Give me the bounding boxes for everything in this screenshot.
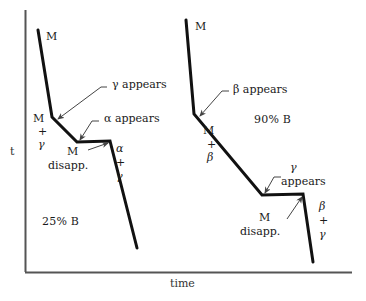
left-phase-label-M-top: M [46, 31, 57, 42]
right-phase-plus-mid: + [207, 139, 216, 150]
composition-label-25-percent-B: 25% B [42, 216, 79, 227]
diagram-canvas [0, 0, 366, 301]
left-m-disapp-M: M [67, 146, 78, 157]
right-phase-label-gamma-lower: γ [319, 229, 326, 240]
annotation-leaders [58, 87, 302, 219]
right-m-disapp-M: M [259, 212, 270, 223]
left-phase-plus-mid: + [38, 126, 47, 137]
left-phase-plus-lower: + [116, 157, 125, 168]
right-annotation-gamma-symbol: γ [290, 162, 297, 173]
right-phase-label-beta-lower: β [319, 201, 325, 212]
right-m-disapp-text: disapp. [240, 226, 280, 237]
right-phase-label-M-mid: M [203, 125, 214, 136]
y-axis-label: t [10, 146, 14, 157]
right-annotation-beta-appears: β appears [233, 84, 287, 95]
right-phase-label-beta-mid: β [207, 152, 213, 163]
left-annotation-gamma-appears: γ appears [112, 79, 167, 90]
right-phase-plus-lower: + [319, 215, 328, 226]
right-annotation-gamma-appears: appears [281, 176, 326, 187]
left-phase-label-alpha: α [116, 143, 123, 154]
gamma-appears-leader-left [58, 87, 107, 119]
left-annotation-alpha-appears: α appears [104, 113, 160, 124]
composition-label-90-percent-B: 90% B [254, 114, 291, 125]
m-disapp-leader-left [88, 143, 108, 150]
right-phase-label-M-top: M [195, 21, 206, 32]
m-disapp-leader-right [287, 197, 302, 219]
left-m-disapp-text: disapp. [48, 160, 88, 171]
left-phase-label-gamma-lower: γ [116, 171, 123, 182]
x-axis-label: time [170, 278, 195, 289]
gamma-appears-leader-right [265, 177, 281, 193]
phase-transformation-diagram: t time M M + γ M disapp. α + γ γ appears… [0, 0, 366, 301]
left-phase-label-M-mid: M [33, 113, 44, 124]
beta-appears-leader-right [200, 91, 229, 116]
left-phase-label-gamma-mid: γ [38, 139, 45, 150]
alpha-appears-leader-left [80, 121, 99, 140]
